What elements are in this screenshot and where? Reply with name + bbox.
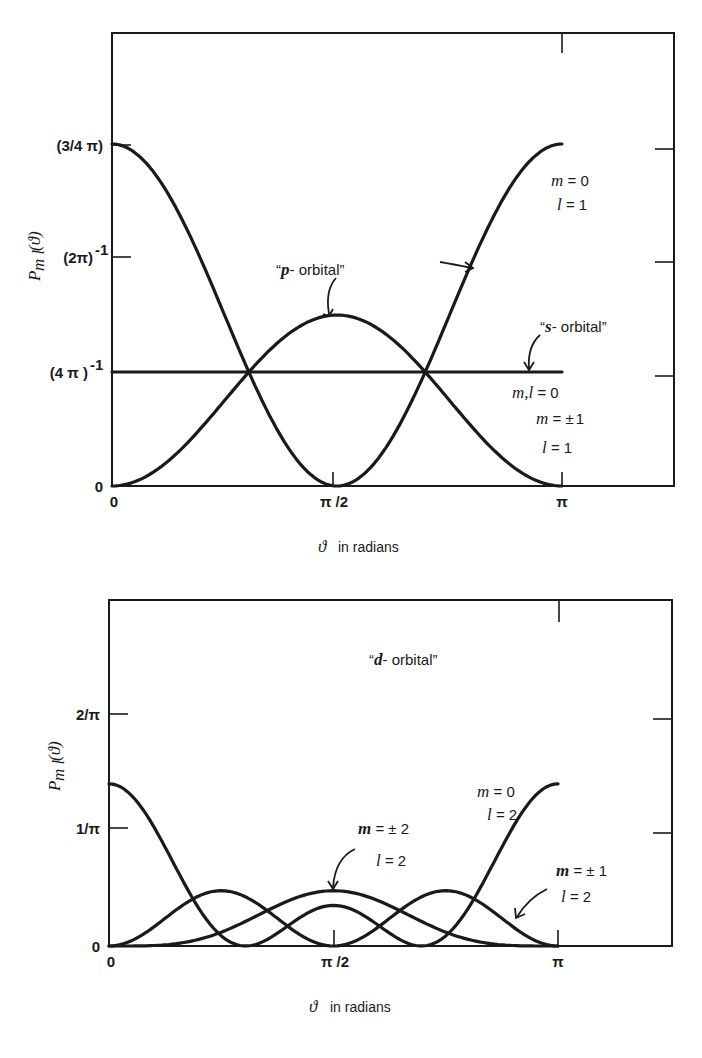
label-m-pm1: m = ±1 (536, 409, 584, 428)
p-orbital-m1-curve (112, 315, 562, 486)
label-l2-m0: l = 2 (487, 805, 517, 824)
top-ylabel-arg: (ϑ) (25, 231, 44, 251)
s-orbital-arrow (529, 335, 540, 369)
label-l1-top: l = 1 (557, 195, 587, 214)
bottom-ytick-label-2pi: 2/π (76, 706, 101, 723)
p-orbital-label: “p- orbital” (276, 260, 345, 279)
bottom-ylabel-p: P (45, 781, 64, 792)
label-ml0: m,l = 0 (512, 383, 559, 402)
figure: (3/4 π) (2π) -1 (4 π ) -1 0 0 π /2 π ϑ i… (0, 0, 702, 1058)
bottom-ytick-label-0: 0 (92, 938, 100, 955)
top-ytick-label-0: 0 (95, 478, 103, 495)
bottom-ylabel-arg: (ϑ) (45, 741, 64, 761)
top-ytick-label-2pi-exp: -1 (95, 241, 108, 258)
p-orbital-arrow-down (328, 278, 336, 314)
bottom-ylabel-sub: m l (49, 759, 68, 781)
bottom-ylabel: P m l (ϑ) (45, 741, 68, 792)
top-ylabel: P m l (ϑ) (25, 231, 48, 282)
bottom-ytick-label-1pi: 1/π (76, 820, 101, 837)
s-orbital-label: “s- orbital” (540, 317, 607, 336)
top-xlabel-text: in radians (338, 539, 399, 555)
top-ytick-label-4pi-exp: -1 (90, 356, 103, 373)
label-m0-top: m = 0 (551, 171, 589, 190)
top-ytick-label-3-4pi: (3/4 π) (57, 137, 104, 154)
bottom-xlabel-text: in radians (330, 999, 391, 1015)
bottom-xtick-label-pi-2: π /2 (321, 953, 349, 970)
bottom-xtick-label-0: 0 (107, 953, 115, 970)
top-xtick-label-pi: π (556, 493, 568, 510)
top-plot-frame (112, 33, 674, 486)
bottom-xtick-label-pi: π (552, 953, 564, 970)
top-ytick-label-2pi-inv: (2π) (63, 249, 93, 266)
bottom-xlabel-theta: ϑ (309, 997, 319, 1016)
top-ytick-label-4pi-inv: (4 π ) (50, 364, 88, 381)
top-plot: (3/4 π) (2π) -1 (4 π ) -1 0 0 π /2 π ϑ i… (25, 33, 674, 556)
label-l1-bottom: l = 1 (542, 438, 572, 457)
label-m0-d: m = 0 (477, 782, 515, 801)
top-ylabel-p: P (25, 271, 44, 282)
bottom-plot: 2/π 1/π 0 0 π /2 π ϑ in radians P m l (ϑ… (45, 600, 672, 1016)
m1-arrow (517, 889, 547, 917)
top-xtick-label-pi-2: π /2 (320, 493, 348, 510)
top-ylabel-sub: m l (29, 249, 48, 271)
d-orbital-label: “d- orbital” (369, 650, 438, 669)
label-l2-m2: l = 2 (376, 851, 406, 870)
label-m-pm1-d: m = ± 1 (556, 861, 607, 880)
top-xlabel-theta: ϑ (318, 537, 328, 556)
label-m-pm2: m = ± 2 (358, 819, 409, 838)
top-xtick-label-0: 0 (110, 493, 118, 510)
label-l2-m1: l = 2 (561, 887, 591, 906)
